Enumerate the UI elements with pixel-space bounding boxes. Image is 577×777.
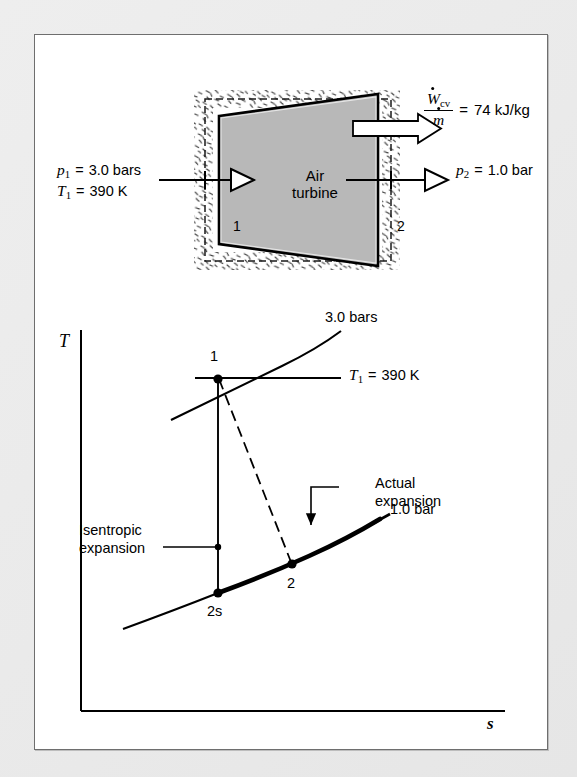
- isentropic-expansion-line2: expansion: [79, 540, 145, 558]
- inlet-pressure-symbol: p1: [57, 161, 70, 181]
- figure-graphics: [35, 35, 549, 751]
- ts-y-axis-label: T: [59, 331, 69, 352]
- isobar-1-bar-label: 1.0 bar: [390, 501, 435, 518]
- ts-state-1-label: 1: [210, 348, 218, 365]
- isentropic-expansion-annotation: Isentropic expansion: [79, 522, 145, 557]
- isotherm-value: 390 K: [382, 367, 420, 384]
- outlet-pressure-value: 1.0 bar: [488, 162, 533, 179]
- actual-expansion-line: [219, 379, 291, 562]
- inlet-pressure-value: 3.0 bars: [89, 162, 141, 179]
- isotherm-symbol: T1: [349, 366, 363, 386]
- isobar-1-bar-curve: [123, 519, 380, 629]
- outlet-pressure-equals: =: [474, 162, 482, 179]
- ts-x-axis-label: s: [487, 714, 494, 734]
- outlet-pressure-symbol: p2: [456, 161, 469, 181]
- inlet-pressure-equals: =: [75, 162, 83, 179]
- isobar-3-bar-label: 3.0 bars: [325, 309, 377, 326]
- ts-state-2-label: 2: [287, 575, 295, 592]
- turbine-label-line2: turbine: [275, 184, 355, 201]
- isotherm-equals: =: [368, 367, 376, 384]
- actual-expansion-line1: Actual: [375, 475, 441, 493]
- ts-axes: [81, 330, 505, 711]
- isotherm-label: T1 = 390 K: [349, 366, 419, 386]
- work-equals: =: [459, 101, 468, 118]
- page-background: p1 = 3.0 bars T1 = 390 K 1 Air turbine W…: [0, 0, 577, 777]
- figure-frame: p1 = 3.0 bars T1 = 390 K 1 Air turbine W…: [34, 34, 548, 750]
- work-output-label: Wcv m = 74 kJ/kg: [424, 90, 530, 128]
- work-denominator: m: [424, 110, 453, 129]
- state-point-1: [213, 374, 222, 383]
- work-fraction: Wcv m: [424, 90, 453, 128]
- isentropic-expansion-line1: Isentropic: [79, 522, 145, 540]
- actual-expansion-leader: [311, 487, 339, 525]
- ts-state-2s-label: 2s: [207, 603, 222, 620]
- inlet-temperature-value: 390 K: [90, 183, 128, 200]
- schematic-state-2-label: 2: [397, 218, 405, 234]
- isobar-1-bar-leader: [372, 514, 390, 524]
- state-point-2s: [213, 588, 222, 597]
- inlet-temperature-symbol: T1: [57, 182, 71, 202]
- schematic-state-1-label: 1: [233, 218, 241, 234]
- state-point-2: [287, 559, 296, 568]
- state-point-markers: [213, 374, 296, 597]
- inlet-temperature-equals: =: [76, 183, 84, 200]
- inlet-conditions-label: p1 = 3.0 bars T1 = 390 K: [57, 161, 141, 201]
- turbine-label-line1: Air: [275, 167, 355, 184]
- outlet-pressure-label: p2 = 1.0 bar: [456, 161, 533, 181]
- work-value: 74 kJ/kg: [474, 101, 530, 118]
- turbine-device-label: Air turbine: [275, 167, 355, 202]
- isobar-3-bar-curve: [171, 331, 341, 420]
- isentropic-leader: [163, 544, 221, 550]
